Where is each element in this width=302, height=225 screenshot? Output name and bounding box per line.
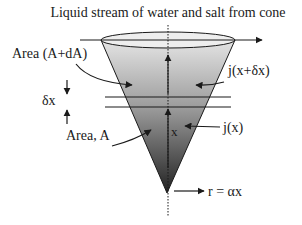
label-axis-x: x — [171, 124, 178, 139]
label-radius: r = αx — [208, 184, 242, 199]
label-delta-x: δx — [42, 93, 56, 108]
label-flux-bottom: j(x) — [222, 120, 244, 136]
diagram-canvas: Liquid stream of water and salt from con… — [0, 0, 302, 225]
diagram-title: Liquid stream of water and salt from con… — [50, 5, 285, 20]
label-area-top: Area (A+dA) — [12, 46, 87, 62]
label-area-bottom: Area, A — [66, 128, 110, 143]
cone-diagram: Liquid stream of water and salt from con… — [0, 0, 302, 225]
label-flux-top: j(x+δx) — [227, 63, 270, 79]
